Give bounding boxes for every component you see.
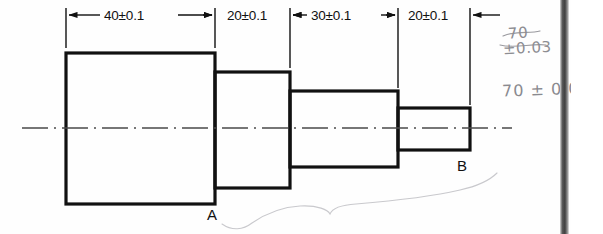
dimension-label-20-b: 20±0.1 — [408, 8, 448, 23]
dimension-label-40: 40±0.1 — [104, 8, 144, 23]
page-spine-shadow — [560, 0, 569, 234]
drawing-page: 40±0.1 20±0.1 30±0.1 20±0.1 A B 70 ±0.03… — [0, 0, 603, 234]
handwritten-struck-tolerance: ±0.03 — [503, 38, 552, 59]
shaft-step-4 — [398, 108, 470, 150]
dimension-label-30: 30±0.1 — [311, 8, 351, 23]
shaft-step-2 — [215, 72, 290, 188]
datum-label-a: A — [207, 206, 217, 223]
page-outer-margin — [571, 0, 603, 234]
dimension-label-20-a: 20±0.1 — [227, 8, 267, 23]
pencil-squiggle — [222, 173, 497, 229]
shaft-step-3 — [290, 91, 398, 167]
datum-label-b: B — [457, 157, 467, 174]
